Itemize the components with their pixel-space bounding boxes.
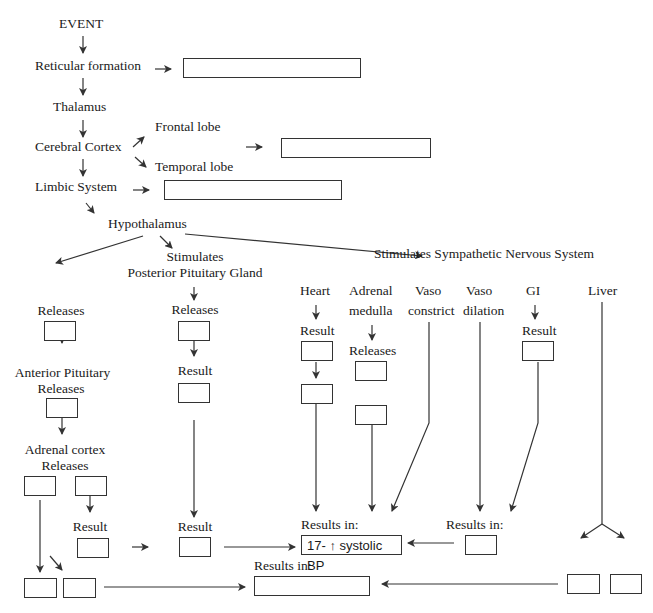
node-gi: GI	[526, 283, 540, 299]
answer-box-final[interactable]	[254, 576, 370, 596]
answer-box[interactable]	[24, 476, 56, 496]
node-liver: Liver	[588, 283, 617, 299]
node-limbic-system: Limbic System	[35, 179, 117, 195]
label-results-in: Results in:	[446, 517, 503, 533]
answer-box[interactable]	[63, 578, 96, 598]
answer-box[interactable]	[355, 405, 387, 425]
stress-response-flowchart: EVENT Reticular formation Thalamus Cereb…	[0, 0, 653, 613]
node-adrenal-cortex: Adrenal cortex	[15, 442, 115, 458]
label-result: Result	[65, 519, 115, 535]
label-result: Result	[170, 363, 220, 379]
label-releases: Releases	[26, 303, 96, 319]
node-sympathetic-nervous-system: Stimulates Sympathetic Nervous System	[374, 246, 594, 262]
node-vaso-dilation-2: dilation	[463, 303, 504, 319]
node-adrenal-medulla: Adrenal	[349, 283, 392, 299]
node-vaso-constrict: Vaso	[415, 283, 441, 299]
label-result: Result	[170, 519, 220, 535]
answer-box[interactable]	[179, 537, 211, 557]
label-result: Result	[522, 323, 557, 339]
label-releases: Releases	[26, 381, 96, 397]
answer-box-reticular[interactable]	[183, 58, 361, 78]
node-posterior-pituitary: Posterior Pituitary Gland	[125, 265, 265, 281]
answer-box[interactable]	[75, 476, 107, 496]
answer-box[interactable]	[178, 383, 210, 403]
answer-box[interactable]	[301, 341, 333, 361]
label-releases: Releases	[349, 343, 396, 359]
answer-box[interactable]	[355, 361, 387, 381]
answer-box-liver-2[interactable]	[610, 574, 642, 594]
node-event: EVENT	[59, 16, 103, 32]
label-releases: Releases	[30, 458, 100, 474]
answer-box[interactable]	[522, 341, 554, 361]
node-heart: Heart	[300, 283, 330, 299]
node-temporal-lobe: Temporal lobe	[155, 159, 233, 175]
answer-box[interactable]	[46, 398, 78, 418]
label-results-in: Results in:	[301, 517, 358, 533]
answer-box[interactable]	[24, 578, 57, 598]
label-results-in: Results in:	[254, 558, 311, 574]
answer-box-limbic[interactable]	[164, 180, 342, 200]
answer-box[interactable]	[44, 321, 76, 341]
label-releases: Releases	[160, 302, 230, 318]
systolic-bp-box: 17- ↑ systolic BP	[301, 535, 402, 555]
answer-box[interactable]	[301, 384, 333, 404]
node-frontal-lobe: Frontal lobe	[155, 119, 221, 135]
node-anterior-pituitary: Anterior Pituitary	[10, 365, 115, 381]
node-hypothalamus: Hypothalamus	[108, 216, 187, 232]
answer-box-liver-1[interactable]	[567, 574, 600, 594]
answer-box[interactable]	[77, 538, 109, 558]
node-thalamus: Thalamus	[53, 99, 106, 115]
node-cerebral-cortex: Cerebral Cortex	[35, 139, 122, 155]
node-stimulates: Stimulates	[140, 249, 250, 265]
node-reticular-formation: Reticular formation	[35, 58, 141, 74]
answer-box[interactable]	[465, 535, 497, 555]
answer-box-cortex[interactable]	[281, 138, 431, 158]
answer-box[interactable]	[178, 321, 210, 341]
node-adrenal-medulla-2: medulla	[349, 303, 393, 319]
node-vaso-constrict-2: constrict	[408, 303, 455, 319]
node-vaso-dilation: Vaso	[466, 283, 492, 299]
label-result: Result	[300, 323, 335, 339]
